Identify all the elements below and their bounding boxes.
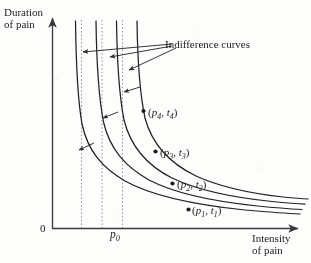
point-3-label: (p3, t3): [160, 146, 189, 162]
data-point-dot-4: [141, 109, 145, 113]
x-tick-label-p0: p0: [110, 228, 120, 244]
point-2-label: (p2, t2): [177, 178, 206, 194]
x-axis-label: Intensity of pain: [252, 232, 291, 257]
annotation-arrow-3: [129, 48, 176, 70]
annotation-arrow-2: [110, 46, 172, 57]
origin-label: 0: [40, 222, 46, 234]
point-1-label: (p1, t1): [192, 204, 221, 220]
data-point-dot-3: [153, 149, 157, 153]
curve-pointer-arrow-b: [103, 112, 118, 118]
curve-pointer-arrow-a: [124, 87, 140, 92]
x-axis-label-line-1: Intensity: [252, 232, 291, 244]
x-tick-subscript: 0: [116, 234, 120, 243]
point-1-paren-close: ): [218, 204, 222, 216]
point-4-paren-close: ): [174, 106, 178, 118]
y-axis-label-line-1: Duration: [4, 6, 43, 18]
figure-canvas: [0, 0, 311, 263]
x-axis-label-line-2: of pain: [252, 244, 291, 256]
data-point-dot-1: [186, 207, 190, 211]
y-axis-label-line-2: of pain: [4, 18, 43, 30]
indifference-curves-annotation: Indifference curves: [165, 38, 250, 50]
data-point-dot-2: [170, 181, 174, 185]
y-axis-label: Duration of pain: [4, 6, 43, 31]
indifference-curve-figure: Duration of pain Intensity of pain 0 p0 …: [0, 0, 311, 263]
point-4-label: (p4, t4): [148, 106, 177, 122]
point-2-paren-close: ): [203, 178, 207, 190]
point-3-paren-close: ): [186, 146, 190, 158]
